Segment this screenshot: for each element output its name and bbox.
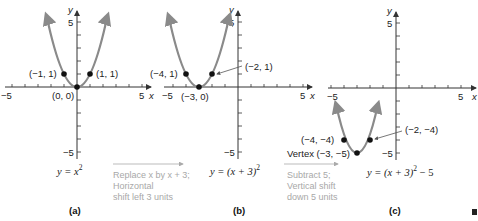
transition-bc-line1: Subtract 5; xyxy=(287,170,331,180)
point-right xyxy=(209,71,215,77)
point-vertex xyxy=(354,150,360,156)
y-tick-label-pos5: 5 xyxy=(387,18,392,29)
point-left xyxy=(183,71,189,77)
y-axis-label: y xyxy=(67,4,74,15)
point-left-label: (−4, −4) xyxy=(301,134,334,145)
x-tick-label-neg5: −5 xyxy=(1,90,12,101)
x-tick-label-pos5: 5 xyxy=(139,90,144,101)
point-left-label: (−4, 1) xyxy=(150,68,178,79)
y-tick-label-pos5: 5 xyxy=(68,17,73,28)
equation-c: y = (x + 3)2 − 5 xyxy=(366,164,433,179)
equation-a: y = x2 xyxy=(56,163,83,177)
point-left xyxy=(61,71,67,77)
transition-ab-line2: Horizontal xyxy=(113,181,154,191)
y-tick-label-neg5: −5 xyxy=(63,147,74,158)
point-vertex-label: Vertex (−3, −5) xyxy=(287,148,350,159)
point-vertex xyxy=(74,84,80,90)
x-tick-label-pos5: 5 xyxy=(458,91,463,102)
caption-c: (c) xyxy=(389,205,401,216)
point-vertex-label: (0, 0) xyxy=(52,90,74,101)
x-axis-label: x xyxy=(148,90,155,101)
equation-b: y = (x + 3)2 xyxy=(209,163,260,178)
leader-line xyxy=(375,131,402,139)
y-axis-label: y xyxy=(386,5,393,16)
panel-a: −5 5 x y 5 −5 (−1, 1) (1, 1) (0, 0) y = … xyxy=(1,4,155,177)
point-right-label: (−2, −4) xyxy=(405,124,438,135)
caption-b: (b) xyxy=(233,205,245,216)
y-axis-label: y xyxy=(228,4,235,15)
caption-a: (a) xyxy=(69,205,81,216)
parabola-curve xyxy=(336,104,378,153)
point-right xyxy=(367,137,373,143)
end-marker xyxy=(472,209,477,215)
x-axis-label: x xyxy=(471,91,478,102)
point-vertex xyxy=(196,84,202,90)
transition-b-to-c: Subtract 5; Vertical shift down 5 units xyxy=(284,164,338,202)
transition-ab-line1: Replace x by x + 3; xyxy=(113,170,190,180)
x-tick-label-pos5: 5 xyxy=(300,90,305,101)
x-tick-label-neg5: −5 xyxy=(327,91,338,102)
point-right-label: (1, 1) xyxy=(96,68,118,79)
point-left-label: (−1, 1) xyxy=(29,68,57,79)
transition-bc-line2: Vertical shift xyxy=(287,181,336,191)
transition-bc-line3: down 5 units xyxy=(287,192,338,202)
y-tick-label-neg5: −5 xyxy=(382,148,393,159)
point-left xyxy=(341,137,347,143)
parabola-transformations-figure: −5 5 x y 5 −5 (−1, 1) (1, 1) (0, 0) y = … xyxy=(0,0,478,221)
x-tick-label-neg5: −5 xyxy=(162,90,173,101)
point-right xyxy=(87,71,93,77)
transition-a-to-b: Replace x by x + 3; Horizontal shift lef… xyxy=(113,164,190,202)
point-vertex-label: (−3, 0) xyxy=(181,91,209,102)
point-right-label: (−2, 1) xyxy=(245,61,273,72)
x-axis-label: x xyxy=(309,90,316,101)
panel-c: −5 5 x y 5 −5 (−4, −4) (−2, −4) Vertex (… xyxy=(287,5,478,179)
transition-ab-line3: shift left 3 units xyxy=(113,192,174,202)
y-tick-label-neg5: −5 xyxy=(224,147,235,158)
